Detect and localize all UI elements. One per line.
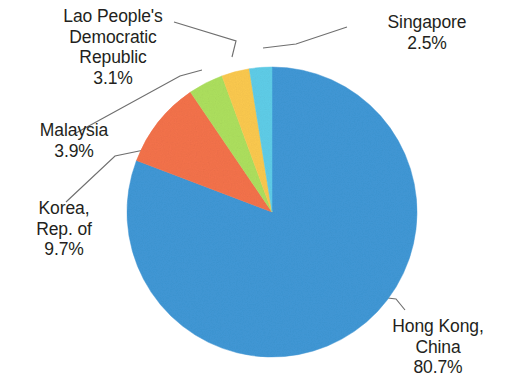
pie-slices-group [127,67,417,357]
leader-line-singapore [263,27,347,48]
slice-label-hong-kong-china: Hong Kong, China 80.7% [366,316,510,378]
slice-label-singapore: Singapore 2.5% [352,12,502,53]
slice-label-korea-rep-of: Korea, Rep. of 9.7% [4,198,124,260]
pie-chart-figure: Lao People's Democratic Republic 3.1% Si… [0,0,516,387]
slice-label-malaysia: Malaysia 3.9% [4,120,144,161]
slice-label-lao-pdr: Lao People's Democratic Republic 3.1% [18,6,208,89]
